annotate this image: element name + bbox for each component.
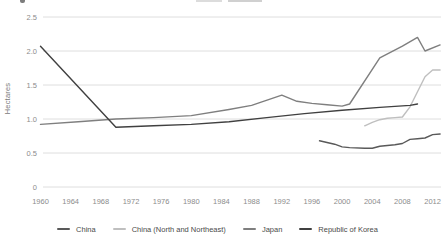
- chart-plot: 2.52.01.51.00.50 19601964196819721976198…: [0, 0, 443, 242]
- series-lines: [41, 37, 441, 148]
- x-tick-label: 1988: [243, 197, 260, 206]
- x-tick-label: 1976: [153, 197, 170, 206]
- x-tick-label: 2008: [394, 197, 411, 206]
- y-tick-label: 2.5: [27, 13, 37, 22]
- x-tick-label: 2012: [424, 197, 441, 206]
- gridlines: [43, 17, 441, 187]
- y-axis-tick-labels: 2.52.01.51.00.50: [27, 13, 37, 192]
- x-tick-label: 2004: [364, 197, 381, 206]
- y-tick-label: 1.5: [27, 81, 37, 90]
- legend-label: Japan: [262, 225, 282, 234]
- x-tick-label: 1980: [183, 197, 200, 206]
- y-tick-label: 1.0: [27, 115, 37, 124]
- y-tick-label: 2.0: [27, 47, 37, 56]
- x-tick-label: 1964: [62, 197, 79, 206]
- y-tick-label: 0.5: [27, 149, 37, 158]
- legend-label: China (North and Northeast): [132, 225, 226, 234]
- series-line-china-north-and-northeast: [365, 70, 440, 126]
- series-line-china: [320, 134, 441, 148]
- x-tick-label: 1960: [32, 197, 49, 206]
- x-axis-tick-labels: 1960196419681972197619801984198819921996…: [32, 197, 441, 206]
- chart-legend: ChinaChina (North and Northeast)JapanRep…: [0, 221, 435, 237]
- x-tick-label: 1984: [213, 197, 230, 206]
- legend-item-china-north-and-northeast: China (North and Northeast): [113, 225, 226, 234]
- legend-swatch: [57, 228, 70, 230]
- x-tick-label: 1996: [304, 197, 321, 206]
- x-tick-label: 1968: [92, 197, 109, 206]
- legend-item-china: China: [57, 225, 96, 234]
- x-tick-label: 1972: [123, 197, 140, 206]
- legend-swatch: [243, 228, 256, 230]
- legend-label: China: [76, 225, 96, 234]
- y-tick-label: 0: [33, 183, 37, 192]
- legend-item-republic-of-korea: Republic of Korea: [299, 225, 378, 234]
- y-axis-title: Hectares: [3, 69, 14, 129]
- legend-swatch: [299, 228, 312, 230]
- legend-item-japan: Japan: [243, 225, 282, 234]
- legend-swatch: [113, 228, 126, 230]
- x-tick-label: 2000: [334, 197, 351, 206]
- legend-label: Republic of Korea: [318, 225, 378, 234]
- x-tick-label: 1992: [273, 197, 290, 206]
